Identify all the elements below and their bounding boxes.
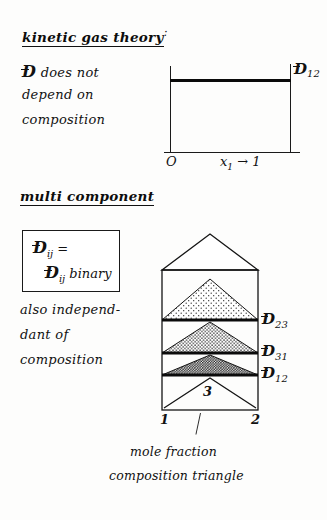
equation-line-2: Dij binary	[45, 263, 112, 284]
roof-triangle	[162, 234, 258, 270]
plot-x-arrow: →	[237, 154, 248, 169]
label-d12-subscript: 12	[275, 373, 288, 384]
band-d12-triangle	[162, 355, 258, 375]
triangle-corner-label-1: 1	[160, 412, 169, 427]
triangle-corner-label-2: 2	[251, 412, 260, 427]
plot-curve-label-subscript: 12	[307, 68, 320, 79]
section-two-line-3: composition	[20, 352, 103, 367]
body-line-3: composition	[22, 112, 105, 127]
equation-box: Dij = Dij binary	[22, 230, 120, 292]
equation-line-2-subscript: ij	[59, 273, 65, 284]
plot-x-tick-left	[170, 146, 171, 153]
label-d31: D31	[262, 342, 288, 362]
equation-line-1-subscript: ij	[47, 248, 53, 259]
kinetic-gas-theory-heading: kinetic gas theory:	[22, 26, 168, 47]
body-line-1-text: does not	[41, 65, 99, 80]
label-d12: D12	[262, 364, 288, 384]
label-d23: D23	[262, 310, 288, 330]
plot-curve-label: D12	[294, 60, 320, 79]
plot-x-axis	[164, 152, 300, 153]
heading-text: kinetic gas theory	[22, 29, 164, 47]
equation-line-1: Dij =	[33, 238, 68, 259]
script-d-glyph: D	[33, 238, 47, 257]
plot-x-axis-caption: x1 → 1	[220, 154, 261, 172]
section-two-line-1: also independ-	[20, 302, 120, 317]
heading-text: multi component	[20, 188, 154, 206]
multi-component-heading: multi component	[20, 186, 154, 206]
equation-line-2-text: binary	[69, 266, 111, 281]
caption-line-1: mole fraction	[130, 444, 217, 459]
plot-x-variable-subscript: 1	[227, 162, 233, 172]
note-page: kinetic gas theory: D does not depend on…	[0, 0, 327, 520]
label-d31-subscript: 31	[275, 351, 288, 362]
script-d-glyph: D	[45, 263, 59, 282]
equation-operator: =	[57, 241, 68, 256]
caption-leader-line	[195, 413, 201, 435]
band-d23-triangle	[162, 279, 258, 320]
plot-x-tick-right	[290, 146, 291, 153]
triangle-apex-label-3: 3	[203, 384, 212, 399]
label-d23-subscript: 23	[275, 319, 288, 330]
composition-triangle-figure: 3 D23 D31 D12	[150, 232, 270, 414]
body-line-2: depend on	[22, 87, 94, 102]
script-d-glyph: D	[262, 364, 275, 382]
plot-flat-curve	[170, 79, 291, 82]
heading-tail-mark: :	[164, 26, 168, 39]
caption-line-2: composition triangle	[109, 468, 244, 483]
script-d-glyph: D	[262, 342, 275, 360]
plot-x-right-label: 1	[252, 154, 260, 169]
composition-independence-plot: D12 O x1 → 1	[168, 58, 318, 158]
band-d31-triangle	[162, 322, 258, 353]
body-line-1: D does not	[22, 62, 99, 81]
plot-right-axis	[290, 64, 291, 152]
script-d-glyph: D	[22, 62, 36, 81]
plot-x-left-label: O	[166, 154, 177, 169]
script-d-glyph: D	[294, 60, 307, 78]
script-d-glyph: D	[262, 310, 275, 328]
section-two-line-2: dant of	[20, 327, 69, 342]
